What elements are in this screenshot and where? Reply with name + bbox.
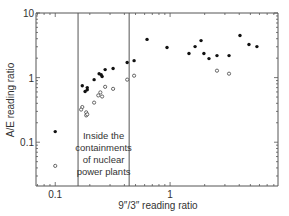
filled-data-point [103,68,106,71]
region-annotation-line: Inside the [83,130,124,141]
open-data-point [111,87,114,90]
region-annotation-line: of nuclear [83,154,125,165]
open-data-point [126,78,129,81]
filled-data-point [215,54,218,57]
filled-data-point [255,45,258,48]
open-data-point [99,91,102,94]
y-tick-label: 1 [28,73,34,84]
filled-data-point [165,46,168,49]
filled-data-point [247,43,250,46]
open-data-point [215,69,218,72]
filled-data-point [199,39,202,42]
filled-data-point [125,61,128,64]
x-tick-label: 1 [167,189,173,200]
open-data-point [80,108,83,111]
y-tick-label: 10 [23,8,35,19]
x-tick-label: 0.1 [48,189,62,200]
containment-region: Inside thecontainmentsof nuclearpower pl… [75,13,132,186]
x-axis-label: 9″/3″ reading ratio [118,200,198,211]
open-data-point [101,95,104,98]
filled-data-point [238,34,241,37]
filled-data-point [227,54,230,57]
filled-data-point [100,75,103,78]
open-data-point [86,113,89,116]
filled-data-point [81,84,84,87]
open-data-point [104,85,107,88]
filled-data-point [207,57,210,60]
y-axis-label: A/E reading ratio [5,62,16,137]
filled-data-point [187,52,190,55]
scatter-chart: Inside thecontainmentsof nuclearpower pl… [0,0,289,216]
region-annotation-line: containments [75,142,132,153]
filled-data-point [111,67,114,70]
filled-data-point [202,52,205,55]
open-data-point [93,101,96,104]
open-data-point [54,164,57,167]
region-annotation-line: power plants [77,166,131,177]
open-data-point [97,94,100,97]
filled-data-point [86,88,89,91]
y-tick-label: 0.1 [20,137,34,148]
open-data-point [133,74,136,77]
filled-data-point [54,130,57,133]
open-data-point [227,72,230,75]
filled-data-point [92,78,95,81]
filled-data-point [193,45,196,48]
filled-data-point [132,59,135,62]
filled-data-point [145,38,148,41]
